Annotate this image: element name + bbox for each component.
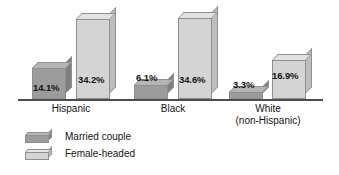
value-label-white-married: 3.3% [233, 79, 254, 90]
value-label-hispanic-female: 34.2% [78, 74, 104, 85]
bar-side-face [110, 7, 116, 93]
legend-label-female-headed: Female-headed [65, 148, 135, 160]
legend: Married couple Female-headed [0, 126, 339, 175]
category-label-white: White (non-Hispanic) [229, 103, 307, 127]
bar-chart: 14.1% 34.2% Hispanic 6.1% 34.6% Black [0, 0, 339, 175]
category-label-hispanic: Hispanic [32, 103, 110, 115]
bar-black-female [178, 18, 212, 99]
bar-black-married [134, 85, 168, 99]
legend-swatch-female-headed [25, 149, 52, 159]
swatch-front-face [25, 152, 49, 160]
bar-front-face [229, 92, 263, 99]
bar-front-face [76, 19, 110, 99]
bar-side-face [212, 6, 218, 93]
legend-label-married-couple: Married couple [65, 131, 131, 143]
value-label-white-female: 16.9% [272, 70, 298, 81]
value-label-black-married: 6.1% [136, 72, 157, 83]
swatch-front-face [25, 135, 49, 143]
legend-swatch-married-couple [25, 132, 52, 142]
bar-hispanic-female [76, 19, 110, 99]
category-label-line1: White [229, 103, 307, 115]
category-label-line1: Hispanic [32, 103, 110, 115]
category-label-black: Black [134, 103, 212, 115]
category-label-line1: Black [134, 103, 212, 115]
plot-area: 14.1% 34.2% Hispanic 6.1% 34.6% Black [0, 0, 339, 100]
value-label-black-female: 34.6% [179, 74, 205, 85]
bar-front-face [178, 18, 212, 99]
value-label-hispanic-married: 14.1% [33, 82, 59, 93]
bar-white-married [229, 92, 263, 99]
x-axis-line [18, 99, 323, 101]
bar-front-face [134, 85, 168, 99]
